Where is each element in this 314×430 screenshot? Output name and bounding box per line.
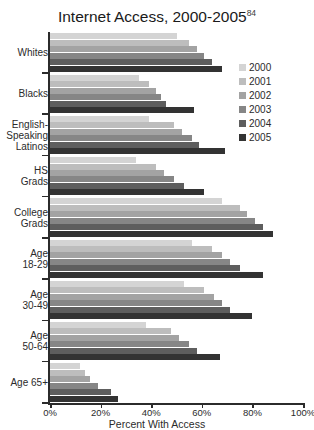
- y-axis-category-label: CollegeGrads: [0, 207, 48, 229]
- y-axis-category-label-line: HS: [0, 165, 48, 176]
- bar-group: [50, 322, 303, 360]
- legend-item[interactable]: 2000: [239, 58, 271, 72]
- y-axis-category-label: Blacks: [0, 88, 48, 99]
- bar: [50, 211, 247, 217]
- y-axis-category-label: Age30-49: [0, 289, 48, 311]
- bar: [50, 294, 214, 300]
- y-axis-tick: [42, 402, 48, 404]
- chart-container: Internet Access, 2000-200584 20002001200…: [0, 0, 314, 430]
- bar: [50, 313, 252, 319]
- y-axis-category-label-line: Latinos: [0, 141, 48, 152]
- bar: [50, 205, 240, 211]
- y-axis-category-label-line: 30-49: [0, 300, 48, 311]
- y-axis-category-label: English-SpeakingLatinos: [0, 119, 48, 152]
- x-axis-tick-label: 20%: [81, 407, 121, 418]
- y-axis-tick: [42, 155, 48, 157]
- y-axis-tick: [42, 278, 48, 280]
- x-axis-tick-label: 40%: [131, 407, 171, 418]
- bar: [50, 135, 192, 141]
- bar: [50, 259, 230, 265]
- legend-swatch-icon: [239, 134, 246, 141]
- y-axis-category-label-line: Whites: [0, 47, 48, 58]
- bar: [50, 59, 212, 65]
- legend-item[interactable]: 2003: [239, 100, 271, 114]
- bar: [50, 240, 192, 246]
- x-axis-tick-label: 60%: [182, 407, 222, 418]
- y-axis-category-label: Whites: [0, 47, 48, 58]
- bar: [50, 231, 273, 237]
- legend-swatch-icon: [239, 78, 246, 85]
- bar: [50, 94, 161, 100]
- bar: [50, 157, 136, 163]
- bar: [50, 389, 111, 395]
- bar: [50, 170, 164, 176]
- bar: [50, 281, 184, 287]
- y-axis-tick: [42, 72, 48, 74]
- bar: [50, 363, 80, 369]
- chart-title-text: Internet Access, 2000-2005: [58, 8, 247, 25]
- y-axis-tick: [42, 113, 48, 115]
- bar: [50, 88, 156, 94]
- y-axis-tick: [42, 196, 48, 198]
- y-axis-tick: [42, 320, 48, 322]
- x-axis-tick-label: 100%: [283, 407, 314, 418]
- legend: 200020012002200320042005: [239, 58, 271, 142]
- y-axis-tick: [42, 237, 48, 239]
- bar: [50, 341, 189, 347]
- bar-group: [50, 198, 303, 236]
- bar: [50, 198, 222, 204]
- legend-item[interactable]: 2001: [239, 72, 271, 86]
- y-axis-category-label: Age50-64: [0, 330, 48, 352]
- bar: [50, 383, 98, 389]
- bar: [50, 164, 156, 170]
- bar: [50, 116, 149, 122]
- y-axis-category-label: HSGrads: [0, 165, 48, 187]
- legend-item[interactable]: 2005: [239, 128, 271, 142]
- bar: [50, 370, 85, 376]
- y-axis-category-label: Age 65+: [0, 377, 48, 388]
- bar: [50, 148, 225, 154]
- bar-group: [50, 240, 303, 278]
- x-axis-line: [48, 403, 303, 405]
- bar: [50, 252, 222, 258]
- bar: [50, 246, 212, 252]
- y-axis-tick: [42, 361, 48, 363]
- bar: [50, 122, 174, 128]
- bar: [50, 142, 199, 148]
- legend-swatch-icon: [239, 106, 246, 113]
- bar: [50, 189, 204, 195]
- y-axis-category-label-line: 18-29: [0, 259, 48, 270]
- bar: [50, 265, 240, 271]
- bar: [50, 101, 166, 107]
- bar-group: [50, 363, 303, 401]
- bar: [50, 183, 184, 189]
- bar: [50, 376, 90, 382]
- chart-title-footnote-marker: 84: [247, 8, 256, 18]
- bar-group: [50, 157, 303, 195]
- y-axis-category-label-line: Age: [0, 248, 48, 259]
- bar: [50, 75, 139, 81]
- legend-item[interactable]: 2002: [239, 86, 271, 100]
- bar: [50, 272, 263, 278]
- bar: [50, 53, 204, 59]
- bar: [50, 66, 222, 72]
- y-axis-category-label: Age18-29: [0, 248, 48, 270]
- bar: [50, 46, 197, 52]
- x-axis-tick-label: 0%: [30, 407, 70, 418]
- chart-title: Internet Access, 2000-200584: [0, 8, 314, 26]
- bar: [50, 224, 263, 230]
- bar: [50, 322, 146, 328]
- y-axis-category-label-line: Blacks: [0, 88, 48, 99]
- bar: [50, 396, 118, 402]
- bar: [50, 354, 220, 360]
- y-axis-category-label-line: Age: [0, 330, 48, 341]
- bar: [50, 40, 189, 46]
- legend-item[interactable]: 2004: [239, 114, 271, 128]
- bar: [50, 328, 171, 334]
- y-axis-category-label-line: Age 65+: [0, 377, 48, 388]
- x-axis-title: Percent With Access: [0, 418, 314, 430]
- x-axis-tick-label: 80%: [232, 407, 272, 418]
- y-axis-category-label-line: English-: [0, 119, 48, 130]
- bar: [50, 348, 197, 354]
- bar: [50, 287, 204, 293]
